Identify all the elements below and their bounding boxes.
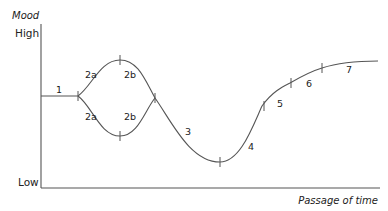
y-axis-title: Mood <box>12 10 40 21</box>
y-axis-high-label: High <box>15 27 39 39</box>
stage-label-2a-upper: 2a <box>85 69 97 80</box>
stage-label-4: 4 <box>248 141 254 152</box>
y-axis-low-label: Low <box>18 176 39 188</box>
stage-ticks <box>78 55 322 167</box>
stage-label-3: 3 <box>185 126 191 137</box>
stage-label-1: 1 <box>56 84 62 95</box>
mood-change-diagram: Mood High Low Passage of time 1 2a 2b 2a… <box>0 0 388 211</box>
stage-label-5: 5 <box>277 98 283 109</box>
stage-label-2b-upper: 2b <box>124 69 136 80</box>
recovery-curve <box>155 61 378 162</box>
stage-label-2b-lower: 2b <box>124 111 136 122</box>
stage-label-2a-lower: 2a <box>85 111 97 122</box>
x-axis-title: Passage of time <box>298 195 378 206</box>
stage-label-7: 7 <box>346 64 352 75</box>
stage-label-6: 6 <box>306 78 312 89</box>
